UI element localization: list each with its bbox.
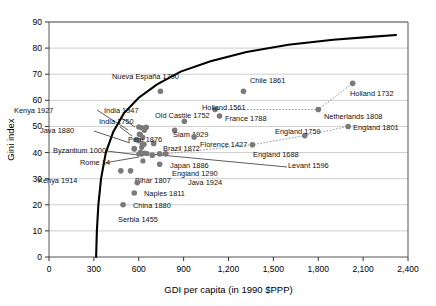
x-tick-label: 300: [87, 264, 101, 274]
data-point-label: Byzantium 1000: [53, 146, 106, 155]
data-point-marker[interactable]: [345, 124, 351, 130]
y-tick-label: 20: [33, 200, 43, 210]
data-point-label: France 1788: [225, 114, 267, 123]
y-tick-label: 60: [33, 95, 43, 105]
data-point-marker[interactable]: [157, 151, 163, 157]
y-tick-label: 40: [33, 148, 43, 158]
x-tick-label: 600: [132, 264, 146, 274]
data-point-label: Kenya 1914: [38, 176, 77, 185]
data-point-marker[interactable]: [134, 180, 140, 186]
data-point-marker[interactable]: [350, 81, 356, 87]
data-point-marker[interactable]: [139, 151, 145, 157]
scatter-chart: 010203040506070809003006009001,2001,5001…: [0, 0, 436, 306]
data-point-marker[interactable]: [144, 151, 149, 156]
data-point-marker[interactable]: [250, 142, 256, 148]
data-point-label: Serbia 1455: [118, 215, 158, 224]
chart-container: 010203040506070809003006009001,2001,5001…: [0, 0, 436, 306]
y-tick-label: 70: [33, 69, 43, 79]
data-point-label: Rome 14: [80, 158, 110, 167]
x-tick-label: 2,100: [352, 264, 374, 274]
data-point-label: Kenya 1927: [14, 106, 53, 115]
data-point-label: Nueva España 1790: [112, 72, 179, 81]
data-point-label: Bihar 1807: [135, 176, 171, 185]
x-tick-label: 1,200: [218, 264, 240, 274]
data-point-label: Peru 1876: [128, 135, 162, 144]
x-axis-title: GDI per capita (in 1990 $PPP): [164, 284, 292, 295]
data-point-marker[interactable]: [143, 124, 149, 130]
data-point-label: Naples 1811: [144, 189, 185, 198]
y-tick-label: 10: [33, 226, 43, 236]
data-point-marker[interactable]: [149, 152, 155, 158]
data-point-marker[interactable]: [163, 151, 169, 157]
data-point-label: Holland 1732: [350, 89, 394, 98]
data-point-marker[interactable]: [128, 168, 134, 174]
data-point-label: Java 1924: [188, 178, 222, 187]
y-tick-label: 0: [37, 252, 42, 262]
x-tick-label: 0: [47, 264, 52, 274]
data-point-marker[interactable]: [131, 146, 137, 152]
x-tick-label: 900: [177, 264, 191, 274]
data-point-label: Netherlands 1808: [324, 112, 382, 121]
data-point-marker[interactable]: [120, 202, 126, 208]
data-point-label: England 1801: [353, 123, 399, 132]
data-point-marker[interactable]: [191, 134, 197, 140]
data-point-label: Old Castile 1752: [155, 111, 210, 120]
data-point-label: India 1947: [104, 106, 139, 115]
data-point-marker[interactable]: [140, 158, 145, 163]
data-point-label: Java 1880: [40, 126, 74, 135]
y-axis-title: Gini index: [5, 118, 16, 160]
data-point-label: Siam 1929: [173, 130, 208, 139]
data-point-label: China 1880: [133, 201, 171, 210]
data-point-label: Florence 1427: [200, 140, 247, 149]
y-tick-label: 90: [33, 17, 43, 27]
x-tick-label: 1,500: [263, 264, 285, 274]
data-point-marker[interactable]: [157, 162, 163, 168]
data-point-marker[interactable]: [158, 88, 164, 94]
data-point-marker[interactable]: [217, 113, 223, 119]
data-point-label: England 1290: [172, 169, 218, 178]
data-point-label: Chile 1861: [250, 76, 285, 85]
data-point-label: India 1750: [99, 117, 134, 126]
x-tick-label: 1,800: [308, 264, 330, 274]
data-point-marker[interactable]: [315, 107, 321, 113]
data-point-marker[interactable]: [241, 88, 247, 94]
data-point-label: England 1688: [253, 150, 299, 159]
data-point-label: Brazil 1872: [163, 144, 200, 153]
data-point-label: England 1759: [275, 127, 321, 136]
data-point-marker[interactable]: [118, 168, 124, 174]
x-tick-label: 2,400: [397, 264, 419, 274]
data-point-label: Levant 1596: [288, 161, 329, 170]
leader-line: [107, 151, 138, 155]
y-tick-label: 80: [33, 43, 43, 53]
data-point-marker[interactable]: [131, 190, 137, 196]
